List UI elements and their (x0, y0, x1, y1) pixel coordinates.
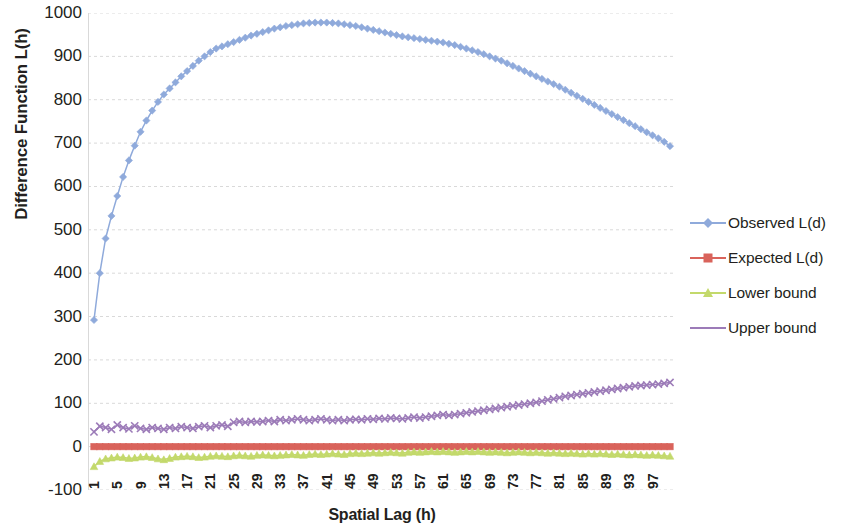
legend-item[interactable]: Observed L(d) (690, 205, 842, 240)
data-point-marker (137, 128, 144, 135)
data-point-marker (364, 25, 371, 32)
legend-key-diamond-icon (690, 213, 726, 233)
x-axis-tick-label: 17 (180, 443, 194, 489)
legend-key-x-icon (690, 318, 726, 338)
data-point-marker (387, 30, 394, 37)
legend-item[interactable]: Upper bound (690, 310, 842, 345)
series-line (94, 383, 670, 432)
x-axis-tick-label: 97 (646, 443, 660, 489)
y-axis-tick-label: 900 (12, 47, 82, 64)
series-observed-l-d (90, 19, 673, 324)
x-axis-tick-label: 65 (459, 443, 473, 489)
data-point-marker (463, 45, 470, 52)
data-point-marker (428, 37, 435, 44)
y-axis-tick-label: 0 (12, 438, 82, 455)
data-point-marker (102, 235, 109, 242)
legend-marker-icon (702, 217, 714, 229)
data-point-marker (271, 25, 278, 32)
y-axis-tick-label: 1000 (12, 4, 82, 21)
data-point-marker (451, 41, 458, 48)
data-point-marker (90, 316, 97, 323)
x-axis-tick-label: 73 (506, 443, 520, 489)
legend-item-label: Observed L(d) (726, 215, 826, 231)
data-point-marker (143, 117, 150, 124)
x-axis-tick-label: 77 (529, 443, 543, 489)
x-axis-tick-labels: 1591317212529333741454953576165697377818… (88, 443, 676, 505)
y-axis-tick-label: 400 (12, 264, 82, 281)
x-axis-tick-label: 49 (366, 443, 380, 489)
data-point-marker (445, 40, 452, 47)
data-point-marker (381, 29, 388, 36)
data-point-marker (108, 212, 115, 219)
legend-marker-icon (702, 287, 714, 299)
x-axis-tick-label: 29 (250, 443, 264, 489)
series-upper-bound (90, 379, 673, 436)
legend-item-label: Lower bound (726, 285, 817, 301)
legend-marker-icon (702, 322, 714, 334)
data-point-marker (434, 38, 441, 45)
data-point-marker (288, 22, 295, 29)
data-point-marker (253, 30, 260, 37)
line-chart: Difference Function L(h) 100090080070060… (0, 0, 842, 531)
data-point-marker (119, 173, 126, 180)
x-axis-tick-label: 9 (134, 443, 148, 489)
plot-svg (88, 13, 676, 490)
plot-area (88, 13, 676, 490)
y-axis-tick-label: 800 (12, 91, 82, 108)
legend-item-label: Upper bound (726, 320, 817, 336)
x-axis-tick-label: 81 (552, 443, 566, 489)
data-point-marker (370, 26, 377, 33)
data-point-marker (416, 35, 423, 42)
data-point-marker (294, 21, 301, 28)
x-axis-tick-label: 1 (87, 443, 101, 489)
x-axis-tick-label: 25 (227, 443, 241, 489)
y-axis-tick-label: 500 (12, 221, 82, 238)
data-point-marker (341, 21, 348, 28)
x-axis-tick-label: 53 (390, 443, 404, 489)
series-line (94, 23, 670, 321)
x-axis-tick-label: 89 (599, 443, 613, 489)
data-point-marker (352, 22, 359, 29)
chart-legend: Observed L(d)Expected L(d)Lower boundUpp… (690, 205, 842, 345)
x-axis-title: Spatial Lag (h) (88, 506, 676, 524)
x-axis-tick-label: 37 (296, 443, 310, 489)
data-point-marker (277, 24, 284, 31)
data-point-marker (439, 39, 446, 46)
data-point-marker (399, 33, 406, 40)
legend-item[interactable]: Expected L(d) (690, 240, 842, 275)
series-layer (90, 19, 674, 470)
data-point-marker (358, 24, 365, 31)
x-axis-tick-label: 41 (320, 443, 334, 489)
data-point-marker (335, 20, 342, 27)
data-point-marker (410, 35, 417, 42)
legend-marker-icon (702, 252, 714, 264)
x-axis-tick-label: 33 (273, 443, 287, 489)
data-point-marker (282, 22, 289, 29)
x-axis-tick-label: 45 (343, 443, 357, 489)
x-axis-tick-label: 69 (483, 443, 497, 489)
x-axis-tick-label: 57 (413, 443, 427, 489)
data-point-marker (422, 36, 429, 43)
legend-key-square-icon (690, 248, 726, 268)
legend-item[interactable]: Lower bound (690, 275, 842, 310)
data-point-marker (375, 28, 382, 35)
data-point-marker (469, 47, 476, 54)
y-axis-tick-label: 700 (12, 134, 82, 151)
data-point-marker (457, 43, 464, 50)
x-axis-tick-label: 5 (110, 443, 124, 489)
data-point-marker (114, 192, 121, 199)
y-axis-tick-label: -100 (12, 481, 82, 498)
y-axis-tick-labels: 10009008007006005004003002001000-100 (0, 0, 82, 531)
x-axis-tick-label: 13 (157, 443, 171, 489)
x-axis-tick-label: 61 (436, 443, 450, 489)
data-point-marker (393, 32, 400, 39)
data-point-marker (265, 27, 272, 34)
legend-key-triangle-icon (690, 283, 726, 303)
y-axis-tick-label: 100 (12, 394, 82, 411)
x-axis-tick-label: 21 (203, 443, 217, 489)
x-axis-tick-label: 93 (622, 443, 636, 489)
data-point-marker (405, 34, 412, 41)
legend-item-label: Expected L(d) (726, 250, 823, 266)
y-axis-tick-label: 200 (12, 351, 82, 368)
data-point-marker (125, 157, 132, 164)
